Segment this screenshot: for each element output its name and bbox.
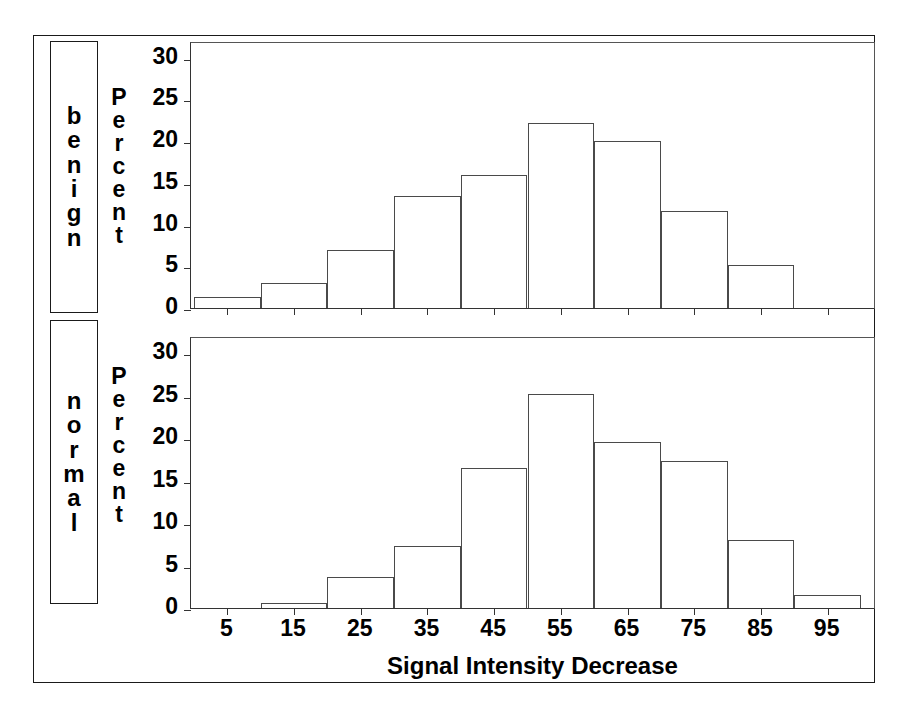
y-axis-title-normal-char-4: e — [113, 457, 126, 480]
y-tick-mark-normal-0 — [184, 610, 191, 611]
y-axis-title-normal-char-6: t — [115, 503, 123, 526]
y-tick-label-normal-25: 25 — [132, 383, 178, 406]
y-axis-title-normal-char-2: r — [115, 411, 124, 434]
bar-benign-5 — [194, 297, 261, 308]
x-tick-mark-benign-45 — [494, 308, 495, 315]
plot-area-normal — [190, 337, 875, 609]
x-tick-mark-normal-45 — [494, 608, 495, 615]
y-axis-title-normal-char-3: c — [113, 434, 126, 457]
x-tick-mark-benign-95 — [828, 308, 829, 315]
plot-area-benign — [190, 42, 875, 309]
y-tick-mark-normal-30 — [184, 355, 191, 356]
x-tick-mark-benign-85 — [761, 308, 762, 315]
bar-normal-85 — [728, 540, 795, 608]
panel-label-benign-char-3: i — [71, 177, 78, 201]
panel-label-box-normal: normal — [50, 320, 98, 604]
y-tick-label-benign-15: 15 — [132, 170, 178, 193]
panel-label-benign-char-5: n — [67, 226, 82, 250]
y-axis-title-normal: Percent — [104, 365, 134, 526]
y-axis-title-benign-char-6: t — [115, 224, 123, 247]
bar-normal-25 — [327, 577, 394, 608]
panel-label-box-benign: benign — [50, 41, 98, 313]
y-axis-title-benign-char-1: e — [113, 109, 126, 132]
x-tick-mark-normal-25 — [361, 608, 362, 615]
x-tick-mark-benign-55 — [561, 308, 562, 315]
bar-benign-65 — [594, 141, 661, 308]
bar-benign-15 — [261, 283, 328, 308]
x-tick-mark-benign-15 — [294, 308, 295, 315]
x-tick-mark-benign-5 — [227, 308, 228, 315]
y-axis-title-normal-char-5: n — [112, 480, 126, 503]
y-tick-mark-benign-30 — [184, 60, 191, 61]
x-tick-mark-normal-5 — [227, 608, 228, 615]
y-tick-label-normal-30: 30 — [132, 340, 178, 363]
y-tick-mark-normal-20 — [184, 440, 191, 441]
y-axis-title-benign-char-3: c — [113, 155, 126, 178]
y-axis-title-benign: Percent — [104, 86, 134, 247]
bar-normal-75 — [661, 461, 728, 608]
panel-label-benign: benign — [67, 104, 82, 251]
bar-benign-45 — [461, 175, 528, 309]
y-tick-mark-normal-15 — [184, 483, 191, 484]
bars-normal — [191, 338, 874, 608]
y-tick-mark-normal-25 — [184, 398, 191, 399]
panel-label-normal-char-3: m — [63, 462, 84, 486]
x-tick-mark-benign-75 — [694, 308, 695, 315]
y-tick-label-normal-0: 0 — [132, 595, 178, 618]
y-tick-mark-benign-5 — [184, 268, 191, 269]
bar-normal-45 — [461, 468, 528, 608]
x-tick-label-25: 25 — [335, 615, 385, 642]
y-tick-label-benign-10: 10 — [132, 212, 178, 235]
y-tick-label-benign-5: 5 — [132, 253, 178, 276]
x-tick-label-15: 15 — [268, 615, 318, 642]
panel-label-normal: normal — [63, 389, 84, 536]
bar-normal-65 — [594, 442, 661, 608]
x-tick-mark-benign-35 — [427, 308, 428, 315]
bar-benign-85 — [728, 265, 795, 308]
y-tick-mark-benign-0 — [184, 310, 191, 311]
x-tick-mark-normal-85 — [761, 608, 762, 615]
x-tick-label-65: 65 — [602, 615, 652, 642]
x-tick-label-5: 5 — [201, 615, 251, 642]
x-tick-label-35: 35 — [401, 615, 451, 642]
x-tick-label-95: 95 — [802, 615, 852, 642]
panel-label-normal-char-1: o — [67, 413, 82, 437]
x-tick-mark-benign-65 — [628, 308, 629, 315]
panel-label-benign-char-2: n — [67, 153, 82, 177]
y-axis-title-benign-char-5: n — [112, 201, 126, 224]
bar-benign-25 — [327, 250, 394, 308]
bars-benign — [191, 43, 874, 308]
panel-label-normal-char-0: n — [67, 389, 82, 413]
y-tick-mark-benign-15 — [184, 185, 191, 186]
y-tick-label-normal-5: 5 — [132, 553, 178, 576]
y-tick-mark-benign-25 — [184, 101, 191, 102]
histogram-figure: benign normal Percent Percent 0510152025… — [0, 0, 906, 723]
y-axis-title-benign-char-4: e — [113, 178, 126, 201]
x-tick-mark-normal-75 — [694, 608, 695, 615]
x-tick-mark-normal-35 — [427, 608, 428, 615]
y-axis-title-normal-char-0: P — [111, 365, 126, 388]
bar-benign-35 — [394, 196, 461, 308]
panel-label-benign-char-0: b — [67, 104, 82, 128]
x-tick-mark-normal-55 — [561, 608, 562, 615]
bar-normal-95 — [794, 595, 861, 608]
x-tick-label-45: 45 — [468, 615, 518, 642]
y-tick-mark-normal-5 — [184, 568, 191, 569]
x-tick-label-55: 55 — [535, 615, 585, 642]
panel-label-normal-char-4: a — [67, 486, 80, 510]
y-tick-label-normal-20: 20 — [132, 425, 178, 448]
x-axis-title: Signal Intensity Decrease — [190, 652, 875, 680]
bar-benign-75 — [661, 211, 728, 308]
x-tick-mark-benign-25 — [361, 308, 362, 315]
bar-normal-35 — [394, 546, 461, 608]
y-tick-label-benign-30: 30 — [132, 45, 178, 68]
bar-benign-55 — [528, 123, 595, 308]
x-tick-mark-normal-95 — [828, 608, 829, 615]
panel-label-normal-char-5: l — [71, 511, 78, 535]
bar-normal-55 — [528, 394, 595, 608]
y-tick-label-benign-25: 25 — [132, 86, 178, 109]
y-tick-label-benign-0: 0 — [132, 295, 178, 318]
x-tick-mark-normal-65 — [628, 608, 629, 615]
y-tick-mark-benign-20 — [184, 143, 191, 144]
y-tick-label-benign-20: 20 — [132, 128, 178, 151]
